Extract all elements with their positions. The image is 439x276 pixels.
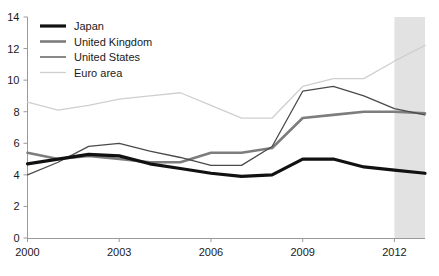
- x-tick-label: 2012: [382, 246, 406, 258]
- line-chart: 02468101214 20002003200620092012 JapanUn…: [0, 0, 439, 276]
- y-tick-label: 10: [7, 74, 19, 86]
- y-axis: 02468101214: [7, 11, 27, 244]
- y-tick-label: 8: [13, 106, 19, 118]
- y-tick-label: 2: [13, 200, 19, 212]
- x-tick-label: 2009: [290, 246, 314, 258]
- y-tick-label: 0: [13, 232, 19, 244]
- y-tick-label: 4: [13, 169, 19, 181]
- x-tick-label: 2000: [15, 246, 39, 258]
- y-tick-label: 12: [7, 43, 19, 55]
- legend-label-euro-area: Euro area: [74, 67, 123, 79]
- y-tick-label: 14: [7, 11, 19, 23]
- chart-container: 02468101214 20002003200620092012 JapanUn…: [0, 0, 439, 276]
- shaded-forecast-region: [394, 17, 425, 238]
- series-line-united-states: [28, 86, 426, 174]
- legend-label-united-states: United States: [74, 51, 141, 63]
- y-tick-label: 6: [13, 137, 19, 149]
- x-tick-label: 2006: [199, 246, 223, 258]
- data-series-group: [28, 45, 426, 176]
- chart-legend: JapanUnited KingdomUnited StatesEuro are…: [40, 20, 152, 79]
- legend-label-united-kingdom: United Kingdom: [74, 36, 152, 48]
- legend-label-japan: Japan: [74, 20, 104, 32]
- x-axis: 20002003200620092012: [15, 238, 425, 258]
- x-tick-label: 2003: [107, 246, 131, 258]
